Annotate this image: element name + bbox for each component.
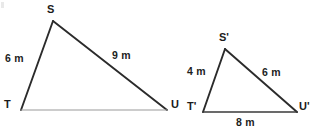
vertex-label-T: T	[4, 99, 11, 110]
vertex-label-S: S	[47, 4, 54, 15]
segment-S-U	[53, 21, 167, 110]
triangle-STU	[21, 21, 167, 110]
vertex-label-U: U	[171, 99, 179, 110]
length-label-ST: 6 m	[5, 53, 24, 64]
vertex-label-U-prime: U'	[299, 101, 310, 112]
vertex-label-S-prime: S'	[219, 32, 229, 43]
vertex-label-T-prime: T'	[187, 101, 196, 112]
segment-T-prime-S-prime	[203, 49, 225, 112]
triangle-S-prime-T-prime-U-prime	[203, 49, 297, 112]
length-label-S-prime-U-prime: 6 m	[262, 67, 281, 78]
length-label-S-prime-T-prime: 4 m	[187, 66, 206, 77]
segment-T-S	[21, 21, 53, 110]
figure-canvas: S T U 6 m 9 m S' T' U' 4 m 6 m 8 m	[0, 0, 315, 140]
length-label-SU: 9 m	[112, 50, 131, 61]
length-label-T-prime-U-prime: 8 m	[236, 117, 255, 128]
segment-S-prime-U-prime	[225, 49, 297, 112]
